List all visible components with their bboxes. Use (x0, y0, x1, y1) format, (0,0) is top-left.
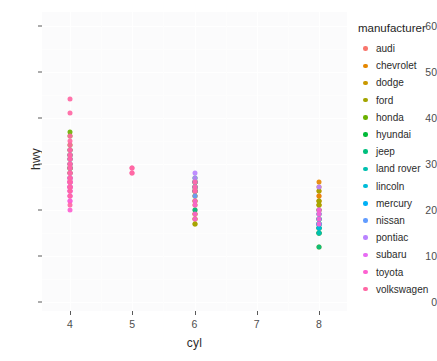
legend-dot-icon (363, 98, 368, 103)
legend-key-swatch (358, 218, 373, 223)
x-tick-mark (132, 311, 133, 315)
legend-item-mercury[interactable]: mercury (358, 195, 437, 212)
x-tick-mark (70, 311, 71, 315)
legend-item-label: chevrolet (373, 60, 417, 71)
x-tick-mark (257, 311, 258, 315)
gridline-vertical-minor (226, 12, 227, 311)
gridline-vertical-minor (163, 12, 164, 311)
data-point (68, 97, 73, 102)
legend-title: manufacturer (358, 22, 437, 34)
legend-item-label: dodge (373, 77, 404, 88)
legend-dot-icon (363, 270, 368, 275)
data-point (192, 189, 197, 194)
legend-dot-icon (363, 167, 368, 172)
gridline-vertical (195, 12, 196, 311)
legend-item-label: pontiac (373, 232, 408, 243)
x-tick-label: 6 (180, 318, 210, 330)
legend-item-list: audichevroletdodgefordhondahyundaijeepla… (358, 40, 437, 298)
legend-key-swatch (358, 64, 373, 69)
data-point (192, 221, 197, 226)
data-point (68, 207, 73, 212)
legend-dot-icon (363, 149, 368, 154)
legend-dot-icon (363, 218, 368, 223)
data-point (192, 217, 197, 222)
legend-item-label: hyundai (373, 129, 411, 140)
legend-key-swatch (358, 149, 373, 154)
legend-item-label: honda (373, 112, 404, 123)
legend-item-label: subaru (373, 249, 407, 260)
legend-item-label: volkswagen (373, 284, 428, 295)
legend-key-swatch (358, 167, 373, 172)
plot-panel (42, 12, 347, 311)
x-tick-mark (319, 311, 320, 315)
legend-item-subaru[interactable]: subaru (358, 246, 437, 263)
legend-item-toyota[interactable]: toyota (358, 263, 437, 280)
data-point (316, 230, 321, 235)
legend-dot-icon (363, 287, 368, 292)
legend-dot-icon (363, 184, 368, 189)
legend-item-label: jeep (373, 146, 395, 157)
legend-dot-icon (363, 201, 368, 206)
x-tick-label: 8 (304, 318, 334, 330)
legend-key-swatch (358, 132, 373, 137)
legend-item-label: land rover (373, 163, 420, 174)
legend-item-volkswagen[interactable]: volkswagen (358, 281, 437, 298)
legend-dot-icon (363, 64, 368, 69)
data-point (316, 189, 321, 194)
legend-dot-icon (363, 46, 368, 51)
legend-item-chevrolet[interactable]: chevrolet (358, 57, 437, 74)
legend-item-lincoln[interactable]: lincoln (358, 178, 437, 195)
y-axis-title: hwy (29, 129, 43, 189)
legend-item-audi[interactable]: audi (358, 40, 437, 57)
x-axis-title: cyl (42, 336, 347, 350)
legend-key-swatch (358, 115, 373, 120)
legend-key-swatch (358, 287, 373, 292)
gridline-vertical (257, 12, 258, 311)
gridline-vertical-minor (101, 12, 102, 311)
legend-item-jeep[interactable]: jeep (358, 143, 437, 160)
data-point (68, 194, 73, 199)
legend-key-swatch (358, 270, 373, 275)
data-point (316, 184, 321, 189)
legend-item-pontiac[interactable]: pontiac (358, 229, 437, 246)
gridline-vertical-minor (288, 12, 289, 311)
scatter-plot-figure: hwy 0102030405060 45678 cyl manufacturer… (0, 0, 437, 361)
legend-item-ford[interactable]: ford (358, 92, 437, 109)
legend-key-swatch (358, 235, 373, 240)
x-tick-label: 7 (242, 318, 272, 330)
legend-dot-icon (363, 115, 368, 120)
legend-key-swatch (358, 81, 373, 86)
gridline-vertical (319, 12, 320, 311)
legend-dot-icon (363, 235, 368, 240)
legend-item-dodge[interactable]: dodge (358, 74, 437, 91)
legend-item-land-rover[interactable]: land rover (358, 160, 437, 177)
data-point (68, 111, 73, 116)
legend-key-swatch (358, 46, 373, 51)
legend-dot-icon (363, 81, 368, 86)
legend-key-swatch (358, 201, 373, 206)
legend-key-swatch (358, 253, 373, 258)
data-point (68, 203, 73, 208)
legend: manufacturer audichevroletdodgefordhonda… (358, 22, 437, 298)
legend-item-label: audi (373, 43, 395, 54)
x-tick-label: 4 (55, 318, 85, 330)
legend-key-swatch (358, 98, 373, 103)
legend-item-label: lincoln (373, 181, 404, 192)
legend-dot-icon (363, 132, 368, 137)
legend-key-swatch (358, 184, 373, 189)
legend-item-honda[interactable]: honda (358, 109, 437, 126)
gridline-vertical (132, 12, 133, 311)
data-point (316, 244, 321, 249)
x-tick-mark (195, 311, 196, 315)
legend-item-label: ford (373, 95, 393, 106)
data-point (192, 203, 197, 208)
legend-item-hyundai[interactable]: hyundai (358, 126, 437, 143)
data-point (316, 226, 321, 231)
legend-item-label: toyota (373, 267, 403, 278)
legend-item-label: mercury (373, 198, 412, 209)
x-tick-label: 5 (117, 318, 147, 330)
data-point (130, 171, 135, 176)
legend-item-nissan[interactable]: nissan (358, 212, 437, 229)
legend-item-label: nissan (373, 215, 405, 226)
data-point (316, 221, 321, 226)
